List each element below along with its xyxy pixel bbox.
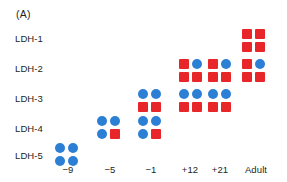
h-subunit-square-icon	[242, 42, 252, 52]
h-subunit-square-icon	[192, 72, 202, 82]
m-subunit-circle-icon	[55, 156, 65, 166]
h-subunit-square-icon	[179, 102, 189, 112]
tetramer-ldh-5-col0	[53, 141, 79, 167]
m-subunit-circle-icon	[208, 89, 218, 99]
tetramer-ldh-4-col1	[95, 114, 121, 140]
m-subunit-circle-icon	[138, 116, 148, 126]
column-label-5: Adult	[234, 164, 278, 175]
m-subunit-circle-icon	[138, 129, 148, 139]
tetramer-ldh-2-col3	[177, 57, 203, 83]
h-subunit-square-icon	[151, 102, 161, 112]
m-subunit-circle-icon	[151, 116, 161, 126]
h-subunit-square-icon	[110, 129, 120, 139]
row-label-ldh-3: LDH-3	[15, 93, 67, 104]
m-subunit-circle-icon	[97, 116, 107, 126]
h-subunit-square-icon	[192, 102, 202, 112]
h-subunit-square-icon	[151, 129, 161, 139]
h-subunit-square-icon	[208, 72, 218, 82]
tetramer-ldh-3-col3	[177, 87, 203, 113]
tetramer-ldh-2-col4	[206, 57, 232, 83]
tetramer-ldh-4-col2	[136, 114, 162, 140]
tetramer-ldh-3-col4	[206, 87, 232, 113]
h-subunit-square-icon	[208, 59, 218, 69]
m-subunit-circle-icon	[55, 143, 65, 153]
m-subunit-circle-icon	[179, 89, 189, 99]
column-label-2: −1	[129, 164, 173, 175]
m-subunit-circle-icon	[151, 89, 161, 99]
m-subunit-circle-icon	[221, 59, 231, 69]
tetramer-ldh-1-col5	[240, 27, 266, 53]
m-subunit-circle-icon	[97, 129, 107, 139]
h-subunit-square-icon	[242, 59, 252, 69]
m-subunit-circle-icon	[192, 59, 202, 69]
m-subunit-circle-icon	[110, 116, 120, 126]
h-subunit-square-icon	[255, 42, 265, 52]
h-subunit-square-icon	[242, 29, 252, 39]
h-subunit-square-icon	[179, 59, 189, 69]
m-subunit-circle-icon	[192, 89, 202, 99]
m-subunit-circle-icon	[221, 89, 231, 99]
tetramer-ldh-3-col2	[136, 87, 162, 113]
m-subunit-circle-icon	[68, 156, 78, 166]
h-subunit-square-icon	[208, 102, 218, 112]
m-subunit-circle-icon	[138, 89, 148, 99]
m-subunit-circle-icon	[68, 143, 78, 153]
h-subunit-square-icon	[255, 29, 265, 39]
h-subunit-square-icon	[221, 102, 231, 112]
ldh-isozyme-figure: (A) LDH-1LDH-2LDH-3LDH-4LDH-5 −9−5−1+12+…	[0, 0, 287, 182]
tetramer-ldh-2-col5	[240, 57, 266, 83]
m-subunit-circle-icon	[255, 59, 265, 69]
h-subunit-square-icon	[138, 102, 148, 112]
h-subunit-square-icon	[242, 72, 252, 82]
column-label-1: −5	[88, 164, 132, 175]
row-label-ldh-4: LDH-4	[15, 123, 67, 134]
h-subunit-square-icon	[255, 72, 265, 82]
row-label-ldh-1: LDH-1	[15, 33, 67, 44]
h-subunit-square-icon	[179, 72, 189, 82]
h-subunit-square-icon	[221, 72, 231, 82]
row-label-ldh-2: LDH-2	[15, 63, 67, 74]
panel-label: (A)	[16, 8, 31, 20]
